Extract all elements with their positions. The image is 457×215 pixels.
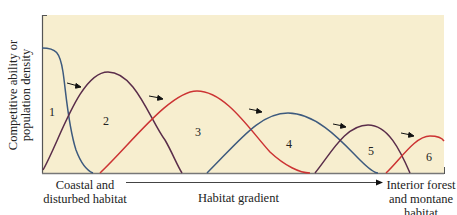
- habitat-gradient-arrowhead: [376, 180, 383, 186]
- species-label-3: 3: [195, 125, 201, 139]
- x-axis-right-line1: Interior forest: [383, 178, 457, 192]
- x-axis-center-label: Habitat gradient: [198, 191, 279, 206]
- x-axis-right-label: Interior forest and montane habitat: [383, 178, 457, 215]
- y-axis-label-line2: population density: [20, 40, 33, 150]
- x-axis-right-line3: habitat: [383, 206, 457, 215]
- x-axis-right-line2: and montane: [383, 192, 457, 206]
- plot-background: [42, 15, 444, 173]
- species-label-4: 4: [286, 137, 292, 151]
- x-axis-left-line2: disturbed habitat: [40, 192, 130, 206]
- species-label-6: 6: [426, 150, 432, 164]
- species-label-5: 5: [368, 144, 374, 158]
- y-axis-label: Competitive ability or population densit…: [2, 16, 38, 174]
- species-label-1: 1: [49, 105, 55, 119]
- species-label-2: 2: [103, 114, 109, 128]
- x-axis-left-line1: Coastal and: [40, 178, 130, 192]
- x-axis-left-label: Coastal and disturbed habitat: [40, 178, 130, 206]
